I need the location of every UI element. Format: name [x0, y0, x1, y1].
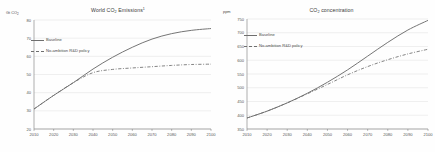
plot-area-concentration: 3504004505005506006507007502010202020302…	[218, 0, 435, 152]
x-axis-tick-label: 2010	[242, 132, 252, 137]
x-axis-tick-label: 2060	[343, 132, 353, 137]
figure-panel: World CO2 Emissions1 Gt CO2 203040506070…	[0, 0, 435, 152]
x-axis-tick-label: 2070	[363, 132, 373, 137]
x-axis-tick-label: 2050	[323, 132, 333, 137]
legend-label-policy: No-ambition R&D policy	[259, 43, 302, 48]
x-axis-tick-label: 2040	[88, 132, 98, 137]
series-line-policy	[34, 64, 211, 109]
chart-co2-concentration: CO2 concentration ppm 350400450500550600…	[218, 0, 435, 152]
legend-label-baseline: Baseline	[46, 37, 62, 42]
plot-area-emissions: 2030405060708020102020203020402050206020…	[0, 0, 218, 152]
x-axis-tick-label: 2020	[49, 132, 59, 137]
chart-world-co2-emissions: World CO2 Emissions1 Gt CO2 203040506070…	[0, 0, 218, 152]
y-axis-tick-label: 50	[26, 72, 31, 77]
legend-swatch-policy	[31, 51, 44, 52]
x-axis-tick-label: 2090	[187, 132, 197, 137]
y-axis-tick-label: 350	[237, 127, 245, 132]
y-axis-tick-label: 40	[26, 90, 31, 95]
y-axis-tick-label: 450	[237, 99, 245, 104]
legend-label-baseline: Baseline	[259, 32, 275, 37]
x-axis-tick-label: 2080	[167, 132, 177, 137]
legend-swatch-policy	[244, 46, 257, 47]
x-axis-tick-label: 2070	[147, 132, 157, 137]
legend-label-policy: No-ambition R&D policy	[46, 48, 89, 53]
x-axis-tick-label: 2020	[263, 132, 273, 137]
x-axis-tick-label: 2090	[403, 132, 413, 137]
y-axis-tick-label: 20	[26, 127, 31, 132]
y-axis-tick-label: 400	[237, 113, 245, 118]
y-axis-tick-label: 750	[237, 17, 245, 22]
y-axis-tick-label: 80	[26, 18, 31, 23]
y-axis-tick-label: 600	[237, 58, 245, 63]
y-axis-tick-label: 60	[26, 54, 31, 59]
x-axis-tick-label: 2080	[383, 132, 393, 137]
x-axis-tick-label: 2100	[423, 132, 433, 137]
y-axis-tick-label: 550	[237, 72, 245, 77]
x-axis-tick-label: 2100	[206, 132, 216, 137]
legend-swatch-baseline	[244, 35, 257, 36]
x-axis-tick-label: 2060	[128, 132, 138, 137]
series-line-policy	[247, 49, 428, 118]
legend-swatch-baseline	[31, 40, 44, 41]
x-axis-tick-label: 2030	[283, 132, 293, 137]
x-axis-tick-label: 2010	[29, 132, 39, 137]
y-axis-tick-label: 500	[237, 85, 245, 90]
y-axis-tick-label: 30	[26, 108, 31, 113]
x-axis-tick-label: 2030	[69, 132, 79, 137]
x-axis-tick-label: 2040	[303, 132, 313, 137]
x-axis-tick-label: 2050	[108, 132, 118, 137]
